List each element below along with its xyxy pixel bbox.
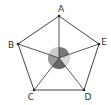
spoke-c: [34, 58, 59, 90]
vertex-point-b: [17, 43, 20, 46]
vertex-label-e: E: [101, 37, 107, 47]
vertex-point-c: [33, 89, 36, 92]
spoke-d: [59, 58, 84, 90]
vertex-label-a: A: [58, 4, 65, 14]
vertex-label-d: D: [85, 92, 92, 102]
vertex-point-d: [83, 89, 86, 92]
vertex-label-c: C: [28, 92, 34, 102]
pentagon-diagram: A B C D E: [0, 0, 111, 105]
vertex-point-a: [58, 15, 61, 18]
vertex-point-e: [98, 43, 101, 46]
vertex-label-b: B: [8, 40, 14, 50]
